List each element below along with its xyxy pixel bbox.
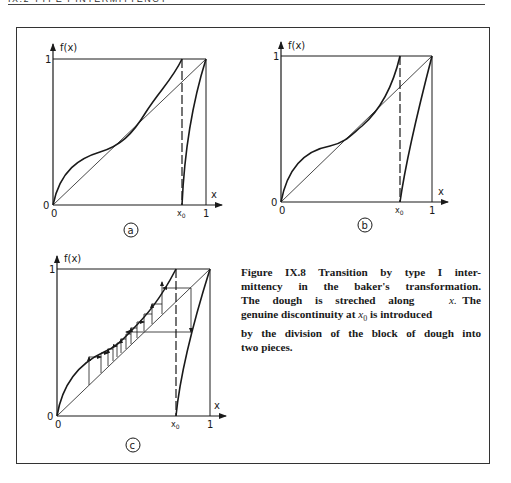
tick-x-origin: 0 (279, 205, 285, 216)
right-branch-curve (176, 269, 210, 416)
tick-x-one: 1 (203, 208, 209, 219)
tick-y-top: 1 (273, 51, 279, 62)
y-axis-label: f(x) (288, 40, 305, 51)
tick-x-origin: 0 (55, 419, 61, 430)
diagonal (57, 269, 210, 416)
caption-line-3: The dough is streched along x. The (241, 293, 481, 307)
caption-line-2: mittency in the baker's transformation. (241, 279, 481, 293)
figure-caption: Figure IX.8 Transition by type I inter- … (241, 265, 481, 354)
tick-y-origin: 0 (47, 411, 53, 422)
panel-b: f(x) 1 0 0 x x0 1 b (271, 40, 448, 232)
panel-c: f(x) 1 0 0 x x0 1 c (47, 253, 226, 452)
left-branch-curve (57, 269, 176, 416)
tick-x0: x0 (177, 209, 186, 219)
caption-line-6: two pieces. (241, 340, 481, 354)
panel-a: f(x) 1 0 0 x x0 1 a (43, 42, 222, 237)
tick-y-top: 1 (45, 54, 51, 65)
tick-x0: x0 (395, 206, 404, 216)
y-axis-label: f(x) (64, 253, 81, 264)
left-branch-curve (53, 59, 182, 205)
caption-line-4: genuine discontinuity at x0 is introduce… (241, 307, 481, 326)
caption-line-5: by the division of the block of dough in… (241, 326, 481, 340)
left-branch-curve (281, 56, 400, 202)
y-axis-label: f(x) (60, 42, 77, 53)
tick-y-origin: 0 (43, 200, 49, 211)
panel-label-c: c (130, 440, 136, 451)
panel-label-b: b (362, 220, 368, 231)
tick-y-top: 1 (49, 264, 55, 275)
tick-x-origin: 0 (51, 208, 57, 219)
caption-line-1: Figure IX.8 Transition by type I inter- (241, 265, 481, 279)
panel-label-a: a (128, 225, 134, 236)
tick-y-origin: 0 (271, 197, 277, 208)
x-axis-label: x (438, 186, 444, 197)
caption-var-x: x. (449, 294, 457, 306)
right-branch-curve (182, 59, 206, 205)
tick-x-one: 1 (429, 205, 435, 216)
right-branch-curve (400, 56, 432, 202)
figure-panels: f(x) 1 0 0 x x0 1 a f(x) 1 0 0 x x0 1 b (0, 0, 511, 483)
tick-x0: x0 (171, 420, 180, 430)
x-axis-label: x (214, 400, 220, 411)
diagonal (281, 56, 432, 202)
x-axis-label: x (211, 189, 217, 200)
tick-x-one: 1 (207, 419, 213, 430)
